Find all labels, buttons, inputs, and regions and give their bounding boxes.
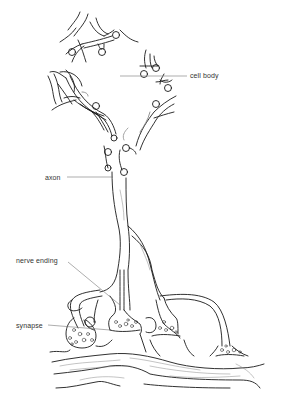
label-axon: axon [45,174,61,182]
muscle-fiber [50,334,264,388]
label-cell-body: cell body [190,72,219,80]
label-nerve-ending: nerve ending [16,257,58,265]
axon [100,172,164,310]
leader-nerve-ending [68,262,120,305]
cell-body [104,145,136,176]
neuron-illustration [0,0,284,404]
nerve-endings [66,290,248,356]
dendrites [48,12,138,141]
leader-synapse [48,325,110,330]
label-synapse: synapse [16,322,43,330]
right-dendrites [123,50,176,150]
